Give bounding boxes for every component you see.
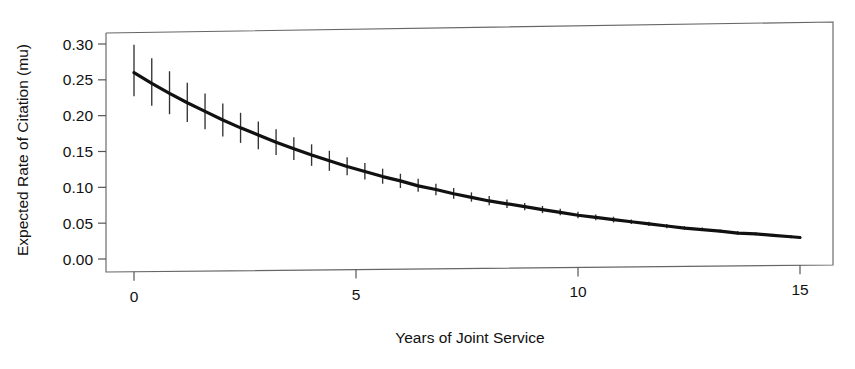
x-tick-label: 5 xyxy=(352,286,361,303)
y-tick-label: 0.15 xyxy=(63,143,93,160)
y-tick-label: 0.30 xyxy=(63,36,94,53)
chart-background xyxy=(0,0,855,369)
x-tick-label: 0 xyxy=(130,288,139,305)
y-tick-label: 0.20 xyxy=(63,107,94,124)
x-tick-label: 15 xyxy=(791,281,808,298)
y-axis-title: Expected Rate of Citation (mu) xyxy=(14,44,31,256)
y-tick-label: 0.05 xyxy=(63,215,93,232)
y-tick-label: 0.10 xyxy=(63,179,94,196)
x-axis-title: Years of Joint Service xyxy=(395,329,544,346)
figure-container: 0.000.050.100.150.200.250.30 051015 Expe… xyxy=(0,0,855,369)
y-tick-label: 0.25 xyxy=(63,71,93,88)
y-tick-label: 0.00 xyxy=(63,251,94,268)
x-tick-label: 10 xyxy=(569,283,587,300)
citation-rate-chart: 0.000.050.100.150.200.250.30 051015 Expe… xyxy=(0,0,855,369)
